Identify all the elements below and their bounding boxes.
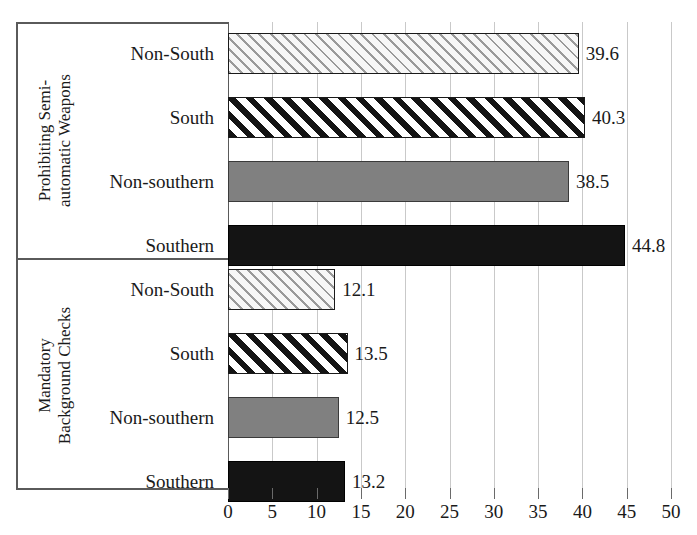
x-tick-50 (671, 488, 672, 499)
x-tick-45 (627, 488, 628, 499)
x-tick-label-10: 10 (307, 501, 326, 523)
x-tick-label-30: 30 (484, 501, 503, 523)
value-label-0-0: 39.6 (586, 33, 619, 74)
x-tick-15 (361, 488, 362, 499)
bar-0-2 (228, 161, 569, 202)
value-label-1-2: 12.5 (346, 397, 379, 438)
value-label-0-2: 38.5 (576, 161, 609, 202)
x-tick-5 (272, 488, 273, 499)
category-label-1-2: Non-southern (16, 397, 224, 438)
x-tick-25 (450, 488, 451, 499)
frame-top-border (16, 22, 228, 24)
x-tick-label-40: 40 (573, 501, 592, 523)
category-label-0-0: Non-South (16, 33, 224, 74)
x-tick-10 (317, 488, 318, 499)
bar-1-2 (228, 397, 339, 438)
bar-0-0 (228, 33, 579, 74)
bar-0-3 (228, 225, 625, 266)
gridline-45 (627, 22, 628, 488)
plot-area: 39.640.338.544.812.113.512.513.2 (228, 22, 679, 488)
x-tick-label-15: 15 (351, 501, 370, 523)
category-label-1-1: South (16, 333, 224, 374)
bar-1-1 (228, 333, 348, 374)
x-tick-label-50: 50 (662, 501, 681, 523)
x-axis: 05101520253035404550 (228, 488, 679, 535)
value-label-0-1: 40.3 (592, 97, 625, 138)
bar-1-0 (228, 269, 335, 310)
category-label-0-3: Southern (16, 225, 224, 266)
category-label-1-0: Non-South (16, 269, 224, 310)
gridline-50 (671, 22, 672, 488)
bar-0-1 (228, 97, 585, 138)
category-label-0-2: Non-southern (16, 161, 224, 202)
x-tick-40 (582, 488, 583, 499)
x-tick-35 (538, 488, 539, 499)
x-tick-label-45: 45 (617, 501, 636, 523)
x-tick-label-25: 25 (440, 501, 459, 523)
category-label-1-3: Southern (16, 461, 224, 502)
category-label-0-1: South (16, 97, 224, 138)
value-label-1-1: 13.5 (355, 333, 388, 374)
x-tick-20 (405, 488, 406, 499)
x-tick-label-0: 0 (223, 501, 233, 523)
x-tick-30 (494, 488, 495, 499)
value-label-0-3: 44.8 (632, 225, 665, 266)
x-tick-label-35: 35 (529, 501, 548, 523)
value-label-1-0: 12.1 (342, 269, 375, 310)
bar-chart: Prohibiting Semi- automatic Weapons Mand… (0, 0, 697, 535)
x-tick-label-5: 5 (268, 501, 278, 523)
x-tick-0 (228, 488, 229, 499)
x-tick-label-20: 20 (396, 501, 415, 523)
